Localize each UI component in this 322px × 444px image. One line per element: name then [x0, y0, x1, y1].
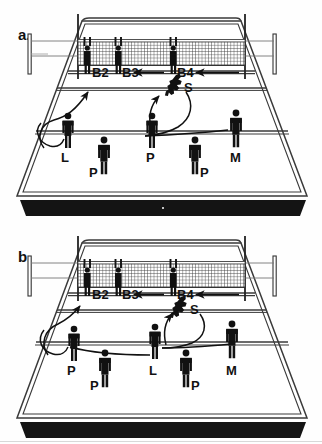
- net-mesh-b: [78, 262, 245, 288]
- court-diagram-b: B2 B3 B4 S P: [0, 222, 322, 444]
- defender-mid-front-right-label-a: P: [200, 165, 209, 180]
- defender-mid-front-left-label-a: P: [89, 165, 98, 180]
- blocker-b2-label-b: B2: [92, 287, 109, 302]
- panel-b: b.: [0, 222, 322, 444]
- defender-left-label-b: P: [67, 363, 76, 378]
- net-mesh-a: [78, 40, 245, 66]
- defender-right-label-a: M: [230, 150, 241, 165]
- defender-mid-front-right-label-b: P: [191, 378, 200, 393]
- spiker-label-b: S: [190, 302, 199, 317]
- panel-a: a.: [0, 0, 322, 222]
- defender-left-label-a: L: [61, 150, 69, 165]
- spiker-label-a: S: [184, 80, 193, 95]
- defender-center-label-b: L: [149, 363, 157, 378]
- page-bottom-rule: [0, 441, 322, 442]
- defender-mid-front-left-label-b: P: [90, 378, 99, 393]
- defender-center-label-a: P: [146, 150, 155, 165]
- court-base-shadow-a: [20, 200, 306, 216]
- court-base-shadow-b: [20, 422, 306, 438]
- court-diagram-a: B2 B3 B4 S L: [0, 0, 322, 222]
- blocker-b2-label-a: B2: [92, 65, 109, 80]
- defender-right-label-b: M: [226, 363, 237, 378]
